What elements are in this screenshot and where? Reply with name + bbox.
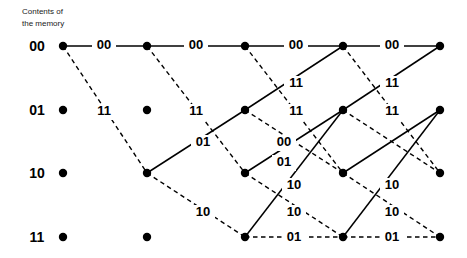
- trellis-node: [143, 233, 151, 241]
- trellis-node: [59, 42, 67, 50]
- trellis-node: [59, 106, 67, 114]
- trellis-node: [436, 106, 444, 114]
- state-labels-layer: 00011011: [29, 38, 45, 245]
- edge-label: 00: [92, 37, 116, 54]
- state-label-00: 00: [29, 38, 45, 54]
- trellis-node: [436, 169, 444, 177]
- edge-label: 10: [282, 177, 306, 194]
- edge-label-text: 00: [189, 37, 203, 52]
- edge-label: 00: [184, 37, 208, 54]
- edge-label: 01: [272, 154, 296, 171]
- edge-label-text: 00: [277, 134, 291, 149]
- edge-label: 11: [284, 75, 308, 92]
- edge-label: 11: [284, 103, 308, 120]
- trellis-node: [436, 233, 444, 241]
- edge-label: 10: [191, 204, 215, 221]
- edge-label: 10: [282, 204, 306, 221]
- edge-label: 11: [380, 75, 404, 92]
- trellis-node: [241, 233, 249, 241]
- edge-label-text: 11: [385, 103, 399, 118]
- edge-label-text: 11: [289, 103, 303, 118]
- trellis-node: [339, 233, 347, 241]
- edge-label-text: 10: [287, 177, 301, 192]
- edge-label-text: 01: [277, 154, 291, 169]
- edge-label-text: 10: [385, 177, 399, 192]
- edge-label: 01: [380, 229, 404, 246]
- header-line-2: the memory: [22, 19, 64, 28]
- edge-label-text: 10: [385, 204, 399, 219]
- trellis-node: [59, 233, 67, 241]
- trellis-node: [241, 169, 249, 177]
- edge-labels-layer: 0011001101100011110001101001001111101001: [92, 37, 404, 246]
- edge-label: 00: [380, 37, 404, 54]
- trellis-node: [241, 42, 249, 50]
- edge-label-text: 00: [385, 37, 399, 52]
- trellis-node: [436, 42, 444, 50]
- trellis-node: [339, 42, 347, 50]
- header-line-1: Contents of: [22, 7, 64, 16]
- edge-label: 10: [380, 177, 404, 194]
- edge-label-text: 11: [385, 75, 399, 90]
- edge-label: 01: [282, 229, 306, 246]
- edge-label-text: 01: [385, 229, 399, 244]
- edge-label: 00: [272, 134, 296, 151]
- edge-label-text: 01: [196, 134, 210, 149]
- edge-label-text: 11: [97, 103, 111, 118]
- edge-label: 11: [380, 103, 404, 120]
- edge-label: 01: [191, 134, 215, 151]
- trellis-node: [143, 106, 151, 114]
- edge-label-text: 11: [289, 75, 303, 90]
- edge-label: 00: [284, 37, 308, 54]
- trellis-diagram-canvas: Contents of the memory 00110011011000111…: [0, 0, 467, 258]
- edge-label: 11: [184, 103, 208, 120]
- state-label-11: 11: [30, 229, 45, 245]
- trellis-node: [59, 169, 67, 177]
- state-label-10: 10: [29, 165, 45, 181]
- edge-label-text: 10: [287, 204, 301, 219]
- edge-label-text: 11: [189, 103, 203, 118]
- trellis-node: [143, 169, 151, 177]
- trellis-node: [339, 106, 347, 114]
- edge-label-text: 10: [196, 204, 210, 219]
- state-label-01: 01: [29, 102, 45, 118]
- edge-label-text: 01: [287, 229, 301, 244]
- edge-label-text: 00: [289, 37, 303, 52]
- edge-label: 10: [380, 204, 404, 221]
- trellis-diagram-page: Contents of the memory 00110011011000111…: [0, 0, 467, 258]
- edge-label: 11: [92, 103, 116, 120]
- trellis-node: [339, 169, 347, 177]
- trellis-node: [241, 106, 249, 114]
- trellis-node: [143, 42, 151, 50]
- edge-label-text: 00: [97, 37, 111, 52]
